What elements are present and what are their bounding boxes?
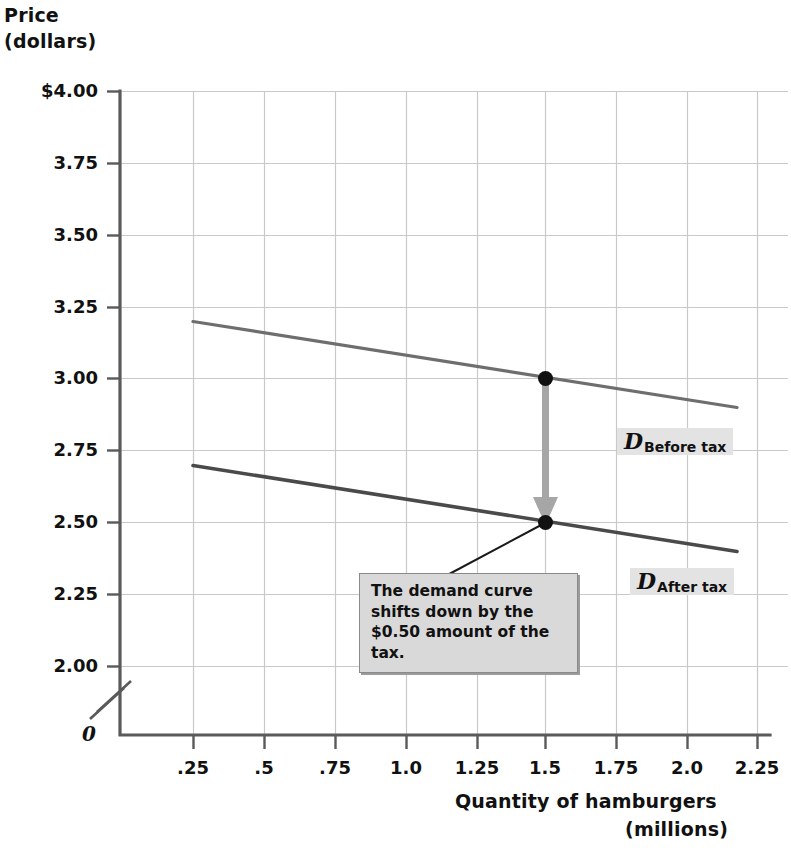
x-axis-title-line2: (millions)	[625, 818, 728, 840]
y-axis-title-line1: Price	[4, 4, 59, 26]
x-tick-label-15: 1.5	[510, 757, 580, 778]
x-tick-label-20: 2.0	[652, 757, 722, 778]
chart-canvas	[0, 0, 791, 850]
y-tick-label-3-50: 3.50	[8, 224, 98, 245]
x-tick-label-075: .75	[300, 757, 370, 778]
curve-label-before-tax-sub: Before tax	[643, 439, 726, 455]
y-tick-label-2-75: 2.75	[8, 439, 98, 460]
x-tick-marks	[194, 735, 758, 749]
curve-label-after-tax: DAfter tax	[630, 568, 734, 595]
y-tick-label-4-00: $4.00	[8, 80, 98, 101]
x-tick-label-175: 1.75	[581, 757, 651, 778]
demand-curve-chart: Price (dollars) Quantity of hamburgers (…	[0, 0, 791, 850]
curve-label-before-tax: DBefore tax	[617, 428, 733, 455]
x-tick-label-025: .25	[158, 757, 228, 778]
x-tick-label-225: 2.25	[722, 757, 791, 778]
curve-demand-before-tax	[193, 322, 737, 408]
y-tick-label-3-75: 3.75	[8, 152, 98, 173]
x-axis-title-line1: Quantity of hamburgers	[455, 790, 717, 812]
callout-leader-line	[438, 524, 543, 580]
y-tick-label-3-00: 3.00	[8, 367, 98, 388]
origin-label: 0	[82, 722, 96, 746]
curve-label-after-tax-d: D	[637, 568, 656, 594]
curve-label-before-tax-d: D	[624, 428, 643, 454]
x-tick-label-05: .5	[229, 757, 299, 778]
shift-arrow-icon	[533, 382, 558, 525]
point-before-tax-marker	[538, 371, 553, 386]
point-after-tax-marker	[538, 515, 553, 530]
y-tick-label-2-50: 2.50	[8, 511, 98, 532]
y-tick-marks	[107, 92, 120, 667]
tax-callout-box: The demand curve shifts down by the $0.5…	[359, 573, 578, 673]
curve-label-after-tax-sub: After tax	[656, 579, 727, 595]
x-tick-label-10: 1.0	[371, 757, 441, 778]
y-tick-label-2-00: 2.00	[8, 655, 98, 676]
y-tick-label-3-25: 3.25	[8, 296, 98, 317]
x-tick-label-125: 1.25	[442, 757, 512, 778]
y-axis-title-line2: (dollars)	[4, 30, 96, 52]
curve-demand-after-tax	[193, 466, 737, 552]
axis-break-marks	[90, 681, 131, 719]
y-tick-label-2-25: 2.25	[8, 583, 98, 604]
